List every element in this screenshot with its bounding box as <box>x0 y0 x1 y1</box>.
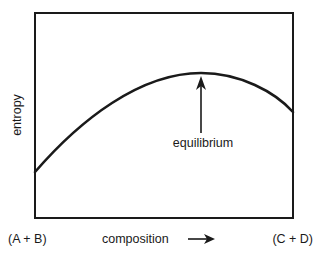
equilibrium-arrow-icon <box>196 76 206 133</box>
composition-arrow-icon <box>188 234 215 244</box>
y-axis-label: entropy <box>11 94 24 136</box>
equilibrium-label: equilibrium <box>173 137 233 150</box>
entropy-curve <box>35 73 293 172</box>
entropy-composition-diagram <box>0 0 324 254</box>
x-axis-left-label: (A + B) <box>8 233 47 246</box>
x-axis-label: composition <box>102 233 169 246</box>
x-axis-right-label: (C + D) <box>272 233 313 246</box>
plot-frame <box>35 13 293 218</box>
